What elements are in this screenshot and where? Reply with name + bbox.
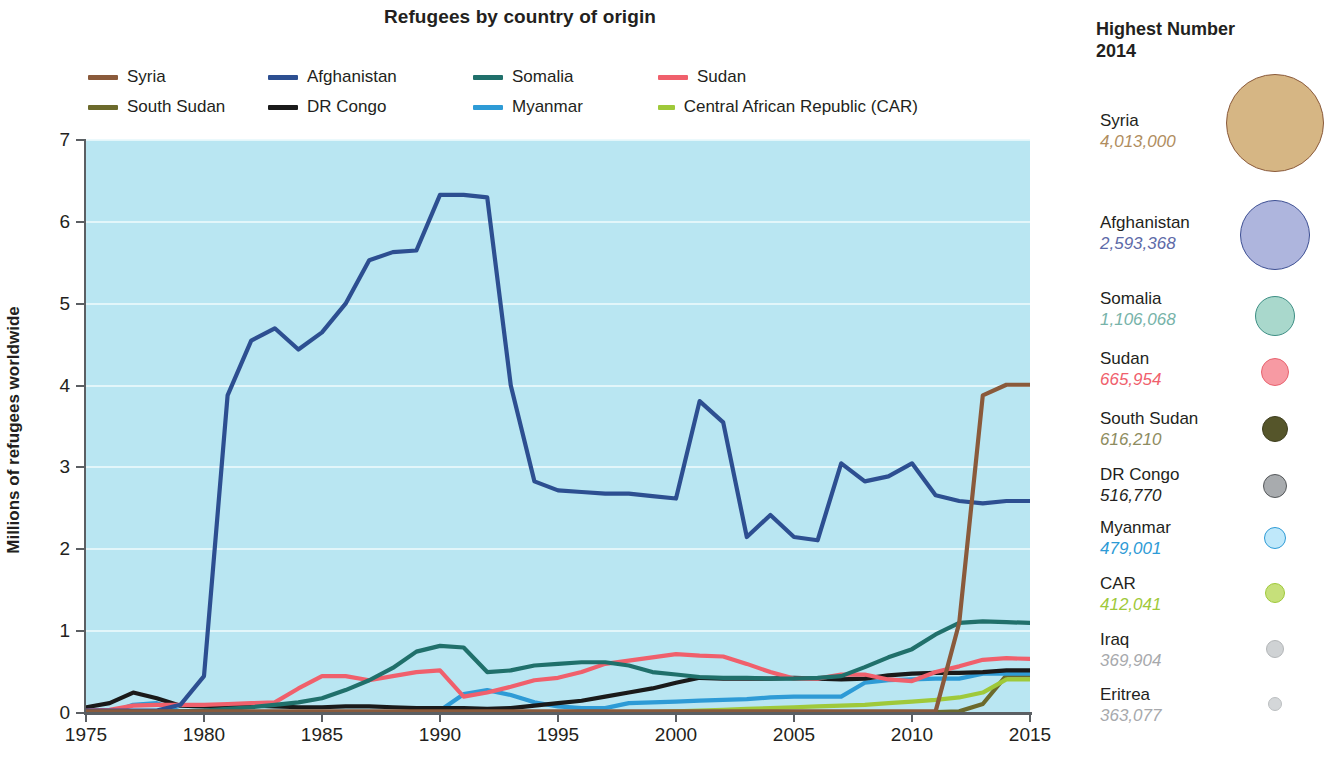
bubble-circle-afghanistan — [1240, 200, 1310, 270]
y-tick-label: 5 — [30, 293, 70, 315]
legend-label: Central African Republic (CAR) — [684, 97, 918, 117]
legend-row: SyriaAfghanistanSomaliaSudan — [88, 62, 1028, 92]
bubble-country-value: 412,041 — [1100, 594, 1230, 615]
x-tick-label: 1980 — [169, 724, 239, 746]
x-tick-mark — [203, 713, 205, 722]
legend-swatch-icon — [658, 75, 688, 80]
legend-swatch-icon — [88, 105, 118, 110]
legend-item-somalia[interactable]: Somalia — [473, 67, 658, 87]
y-axis-tick-labels: 76543210 — [22, 0, 70, 780]
bubble-country-value: 1,106,068 — [1100, 309, 1230, 330]
bubble-country-value: 2,593,368 — [1100, 233, 1230, 254]
x-tick-mark — [85, 713, 87, 722]
x-tick-mark — [793, 713, 795, 722]
x-tick-mark — [439, 713, 441, 722]
bubble-country-value: 4,013,000 — [1100, 131, 1230, 152]
bubble-country-name: Afghanistan — [1100, 212, 1230, 233]
bubble-text-block: Afghanistan2,593,368 — [1100, 212, 1230, 254]
bubble-country-value: 363,077 — [1100, 705, 1230, 726]
bubble-title-line2: 2014 — [1096, 40, 1344, 62]
bubble-circle-iraq — [1266, 640, 1284, 658]
bubble-country-value: 479,001 — [1100, 538, 1230, 559]
bubble-country-value: 369,904 — [1100, 650, 1230, 671]
chart-legend: SyriaAfghanistanSomaliaSudanSouth SudanD… — [88, 62, 1028, 122]
x-tick-label: 1975 — [51, 724, 121, 746]
legend-label: Sudan — [697, 67, 746, 87]
x-tick-label: 1995 — [523, 724, 593, 746]
bubble-text-block: Sudan665,954 — [1100, 348, 1230, 390]
y-tick-label: 2 — [30, 538, 70, 560]
legend-label: South Sudan — [127, 97, 225, 117]
bubble-country-name: South Sudan — [1100, 408, 1230, 429]
legend-swatch-icon — [268, 75, 298, 80]
x-tick-mark — [675, 713, 677, 722]
bubble-text-block: South Sudan616,210 — [1100, 408, 1230, 450]
x-tick-label: 1985 — [287, 724, 357, 746]
bubble-country-name: Somalia — [1100, 288, 1230, 309]
bubble-country-name: DR Congo — [1100, 464, 1230, 485]
bubble-panel-title: Highest Number 2014 — [1096, 18, 1344, 62]
bubble-country-name: Syria — [1100, 110, 1230, 131]
bubble-circle-somalia — [1255, 296, 1295, 336]
legend-swatch-icon — [473, 105, 503, 110]
chart-title: Refugees by country of origin — [0, 6, 1040, 28]
bubble-circle-sudan — [1261, 358, 1289, 386]
x-tick-label: 2000 — [641, 724, 711, 746]
legend-swatch-icon — [473, 75, 503, 80]
bubble-text-block: Somalia1,106,068 — [1100, 288, 1230, 330]
bubble-circle-myanmar — [1264, 527, 1286, 549]
x-tick-mark — [321, 713, 323, 722]
legend-label: Somalia — [512, 67, 573, 87]
bubble-text-block: Myanmar479,001 — [1100, 517, 1230, 559]
legend-label: Afghanistan — [307, 67, 397, 87]
y-tick-label: 6 — [30, 211, 70, 233]
bubble-circle-eritrea — [1268, 697, 1282, 711]
legend-swatch-icon — [88, 75, 118, 80]
bubble-text-block: Eritrea363,077 — [1100, 684, 1230, 726]
legend-item-afghanistan[interactable]: Afghanistan — [268, 67, 473, 87]
bubble-text-block: Iraq369,904 — [1100, 629, 1230, 671]
legend-item-central-african-republic-car[interactable]: Central African Republic (CAR) — [658, 97, 918, 117]
x-tick-mark — [911, 713, 913, 722]
y-tick-label: 7 — [30, 129, 70, 151]
legend-item-myanmar[interactable]: Myanmar — [473, 97, 658, 117]
legend-swatch-icon — [658, 105, 675, 110]
bubble-circle-south-sudan — [1262, 416, 1288, 442]
highest-number-panel: Highest Number 2014 Syria4,013,000Afghan… — [1086, 0, 1344, 780]
legend-item-dr-congo[interactable]: DR Congo — [268, 97, 473, 117]
y-tick-label: 1 — [30, 620, 70, 642]
bubble-country-value: 516,770 — [1100, 485, 1230, 506]
x-tick-mark — [557, 713, 559, 722]
y-tick-label: 3 — [30, 456, 70, 478]
bubble-text-block: DR Congo516,770 — [1100, 464, 1230, 506]
bubble-country-value: 616,210 — [1100, 429, 1230, 450]
bubble-circle-car — [1265, 583, 1285, 603]
bubble-title-line1: Highest Number — [1096, 19, 1235, 39]
bubble-text-block: Syria4,013,000 — [1100, 110, 1230, 152]
bubble-country-name: Iraq — [1100, 629, 1230, 650]
y-tick-label: 0 — [30, 702, 70, 724]
legend-label: Myanmar — [512, 97, 583, 117]
legend-item-syria[interactable]: Syria — [88, 67, 268, 87]
x-tick-label: 1990 — [405, 724, 475, 746]
legend-swatch-icon — [268, 105, 298, 110]
legend-row: South SudanDR CongoMyanmarCentral Africa… — [88, 92, 1028, 122]
x-tick-label: 2010 — [877, 724, 947, 746]
series-line-afghanistan — [86, 195, 1030, 711]
legend-item-south-sudan[interactable]: South Sudan — [88, 97, 268, 117]
x-tick-label: 2015 — [995, 724, 1065, 746]
legend-item-sudan[interactable]: Sudan — [658, 67, 918, 87]
legend-label: Syria — [127, 67, 166, 87]
plot-area — [86, 140, 1030, 713]
y-tick-label: 4 — [30, 375, 70, 397]
bubble-text-block: CAR412,041 — [1100, 573, 1230, 615]
bubble-country-name: CAR — [1100, 573, 1230, 594]
series-lines — [86, 140, 1030, 713]
bubble-circle-dr-congo — [1263, 474, 1287, 498]
infographic-root: Refugees by country of origin SyriaAfgha… — [0, 0, 1344, 780]
x-tick-label: 2005 — [759, 724, 829, 746]
line-chart-panel: Refugees by country of origin SyriaAfgha… — [0, 0, 1080, 780]
legend-label: DR Congo — [307, 97, 386, 117]
bubble-circle-syria — [1226, 74, 1324, 172]
bubble-country-name: Sudan — [1100, 348, 1230, 369]
